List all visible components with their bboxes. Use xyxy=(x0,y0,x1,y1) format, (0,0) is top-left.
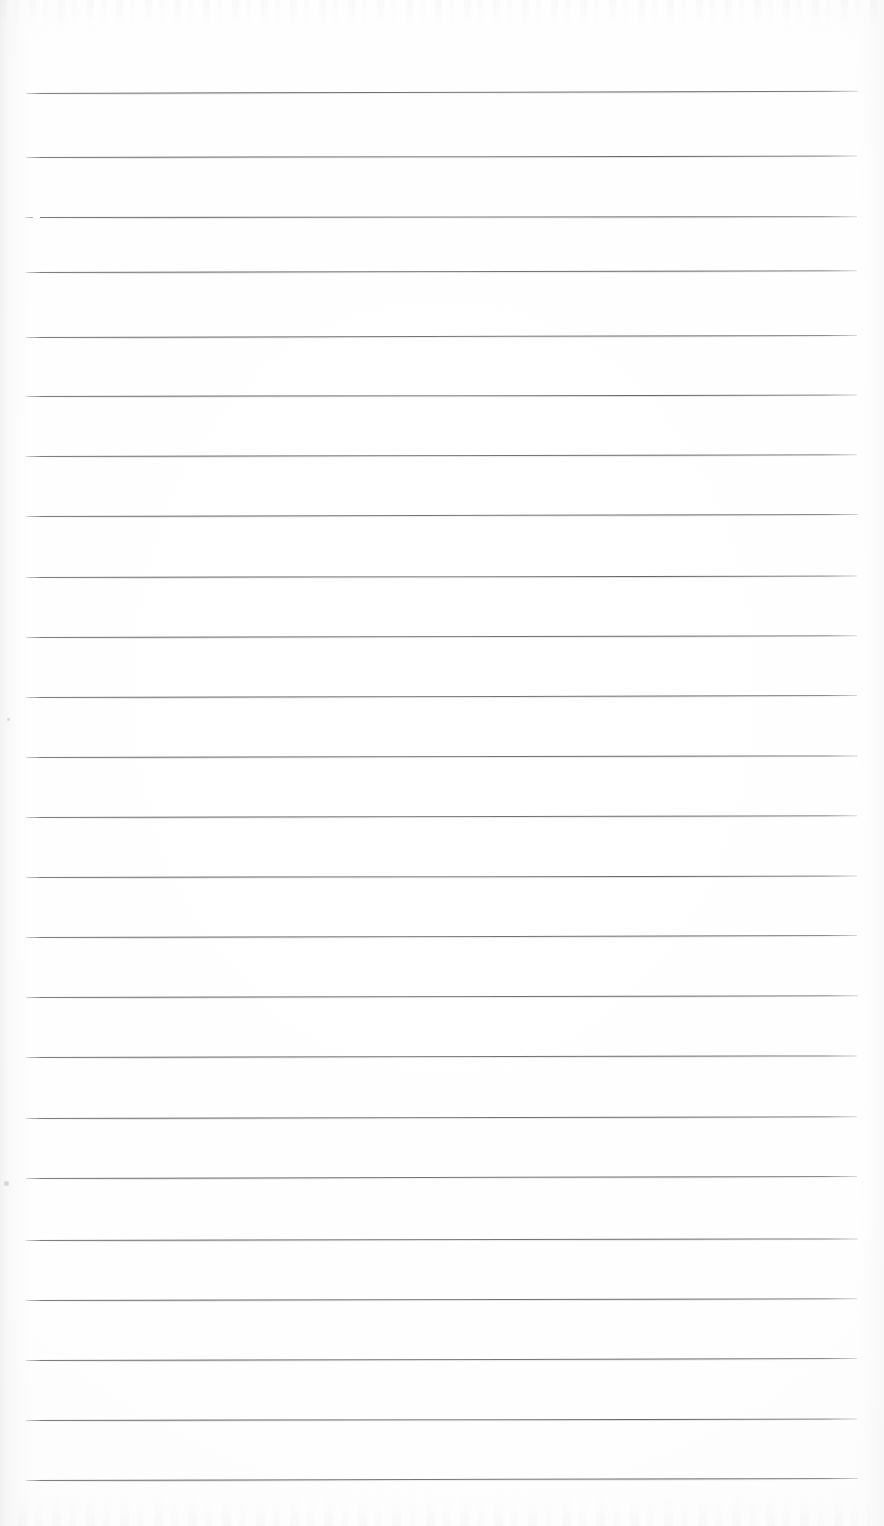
scanned-page xyxy=(0,0,884,1526)
writing-area[interactable] xyxy=(26,40,858,1490)
